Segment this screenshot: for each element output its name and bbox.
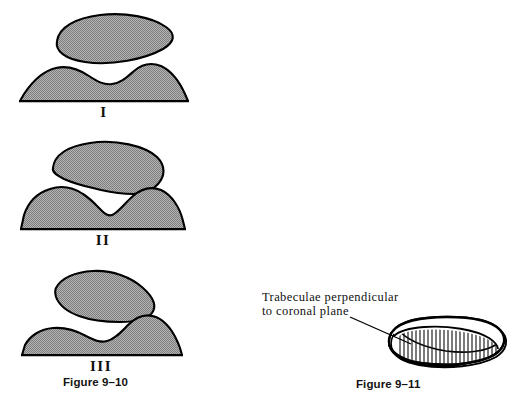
figure-9-11-caption: Figure 9–11 (356, 378, 420, 390)
panel-II-upper-body (53, 142, 164, 194)
panel-III-upper-body (55, 271, 154, 322)
panel-I-lower-body (20, 64, 188, 101)
trabeculae-annotation-line-1: Trabeculae perpendicular (262, 290, 399, 304)
anatomy-illustration-canvas (0, 0, 523, 403)
trabeculae-annotation: Trabeculae perpendicular to coronal plan… (262, 290, 399, 318)
panel-label-III: III (0, 358, 202, 375)
figure-page: I II III Figure 9–10 Figure 9–11 Trabecu… (0, 0, 523, 403)
trabeculae-annotation-line-2: to coronal plane (262, 304, 399, 318)
panel-label-II: II (0, 232, 206, 249)
panel-I-upper-body (57, 14, 173, 63)
panel-I-group (19, 14, 189, 101)
panel-III-group (21, 271, 183, 355)
panel-label-I: I (0, 104, 208, 121)
panel-II-group (20, 142, 186, 229)
figure-9-10-caption: Figure 9–10 (63, 376, 128, 388)
figure-9-11-group (350, 317, 506, 370)
panel-II-lower-body (21, 187, 185, 229)
